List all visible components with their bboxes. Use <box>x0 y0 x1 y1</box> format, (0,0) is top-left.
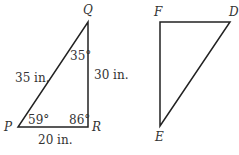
side-label-qr: 30 in. <box>94 68 128 82</box>
vertex-label-r: R <box>91 120 101 134</box>
angle-label-q: 35° <box>70 49 91 63</box>
triangle-pqr: P Q R 35 in. 30 in. 20 in. 59° 35° 86° <box>3 3 128 147</box>
vertex-label-e: E <box>154 130 164 144</box>
vertex-label-p: P <box>3 120 13 134</box>
vertex-label-d: D <box>228 5 239 19</box>
vertex-label-f: F <box>153 5 163 19</box>
side-label-pq: 35 in. <box>15 71 49 85</box>
triangle-def: F D E <box>153 5 239 144</box>
side-label-pr: 20 in. <box>38 133 72 147</box>
angle-label-p: 59° <box>28 113 49 127</box>
diagram-canvas: P Q R 35 in. 30 in. 20 in. 59° 35° 86° F… <box>0 0 239 155</box>
angle-label-r: 86° <box>69 113 90 127</box>
triangle-def-shape <box>160 22 230 126</box>
vertex-label-q: Q <box>83 3 93 17</box>
